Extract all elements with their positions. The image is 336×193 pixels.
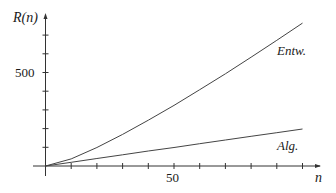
x-tick-label-50: 50: [166, 170, 179, 185]
series-line-alg: [46, 129, 303, 166]
series-line-entw: [46, 23, 303, 166]
x-axis-arrow-icon: [315, 164, 321, 168]
y-axis-arrow-icon: [44, 13, 48, 19]
y-axis-label: R(n): [12, 10, 38, 26]
series-label-entw: Entw.: [276, 43, 306, 58]
y-axis: [43, 13, 49, 176]
x-axis: [33, 163, 321, 169]
series-label-alg: Alg.: [276, 138, 298, 153]
x-axis-label: n: [315, 170, 322, 185]
y-tick-label-500: 500: [15, 65, 35, 80]
chart: R(n) 500 50 n Entw. Alg.: [0, 0, 336, 193]
